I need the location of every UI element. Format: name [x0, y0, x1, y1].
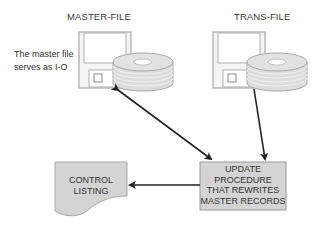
update-procedure-line-4: MASTER RECORDS — [200, 196, 286, 207]
io-annotation-line-2: serves as I-O — [14, 61, 74, 74]
update-procedure-line-2: PROCEDURE — [200, 175, 286, 186]
master-update-bidirectional-arrow — [118, 90, 211, 159]
trans-to-update-arrow — [254, 89, 265, 159]
control-listing-line-1: CONTROL — [55, 175, 127, 186]
trans-file-label: TRANS-FILE — [234, 11, 290, 22]
update-procedure-text: UPDATE PROCEDURE THAT REWRITES MASTER RE… — [200, 164, 286, 206]
io-annotation: The master file serves as I-O — [14, 48, 74, 74]
master-file-disk-stack-icon — [113, 53, 173, 91]
control-listing-line-2: LISTING — [55, 186, 127, 197]
master-file-label: MASTER-FILE — [67, 11, 131, 22]
update-procedure-line-1: UPDATE — [200, 164, 286, 175]
update-procedure-line-3: THAT REWRITES — [200, 185, 286, 196]
control-listing-text: CONTROL LISTING — [55, 175, 127, 196]
trans-file-disk-stack-icon — [247, 53, 307, 91]
io-annotation-line-1: The master file — [14, 48, 74, 61]
